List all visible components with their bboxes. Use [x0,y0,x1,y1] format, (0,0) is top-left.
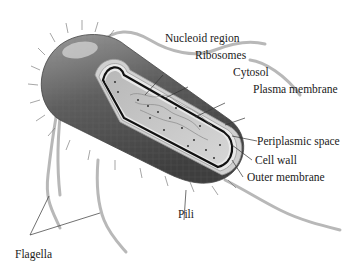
label-periplasmic-space: Periplasmic space [257,136,340,148]
label-pili: Pili [178,209,194,221]
label-plasma-membrane: Plasma membrane [253,84,338,96]
label-nucleoid-region: Nucleoid region [165,33,239,45]
leader-flagella-b [30,213,100,235]
flagellum-left-3 [97,160,126,252]
bacterium-diagram: Nucleoid region Ribosomes Cytosol Plasma… [0,0,360,277]
label-ribosomes: Ribosomes [195,50,246,62]
leader-flagella-a [30,196,49,235]
label-flagella: Flagella [15,249,52,261]
label-cytosol: Cytosol [233,67,269,79]
label-cell-wall: Cell wall [255,155,297,167]
label-outer-membrane: Outer membrane [247,172,325,184]
flagellum-bottom-right [225,180,340,230]
